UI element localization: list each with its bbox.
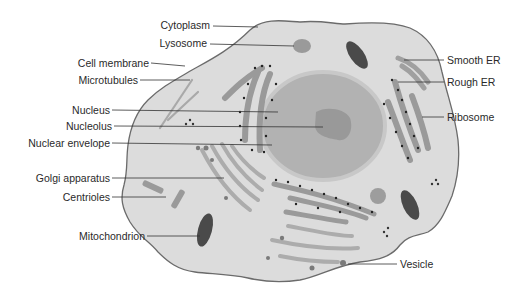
vesicle-large xyxy=(370,188,386,204)
label-microtubules: Microtubules xyxy=(60,74,138,86)
label-ribosome: Ribosome xyxy=(447,111,494,123)
label-cytoplasm: Cytoplasm xyxy=(150,19,210,31)
label-nuclear-envelope: Nuclear envelope xyxy=(0,137,110,149)
label-nucleolus: Nucleolus xyxy=(50,120,112,132)
label-golgi-apparatus: Golgi apparatus xyxy=(0,172,110,184)
label-centrioles: Centrioles xyxy=(40,191,110,203)
label-cell-membrane: Cell membrane xyxy=(60,57,149,69)
label-rough-er: Rough ER xyxy=(447,76,495,88)
label-smooth-er: Smooth ER xyxy=(447,54,501,66)
label-vesicle: Vesicle xyxy=(400,258,433,270)
label-mitochondrion: Mitochondrion xyxy=(40,230,145,242)
label-nucleus: Nucleus xyxy=(50,104,110,116)
lysosome-shape xyxy=(293,39,311,53)
cell-diagram: Cytoplasm Lysosome Cell membrane Microtu… xyxy=(0,0,523,304)
label-lysosome: Lysosome xyxy=(150,37,207,49)
